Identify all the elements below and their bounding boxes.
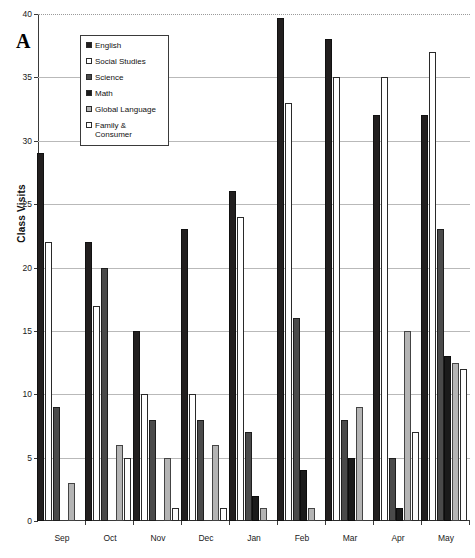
y-axis-tick-mark	[34, 521, 38, 522]
bar	[373, 115, 380, 521]
legend-item: Family & Consumer	[86, 121, 164, 139]
bar	[124, 458, 131, 521]
bar	[412, 432, 419, 521]
legend-swatch-icon	[86, 90, 92, 96]
x-axis-tick-mark	[325, 521, 326, 525]
bar	[197, 420, 204, 521]
x-axis-tick-mark	[373, 521, 374, 525]
bar	[212, 445, 219, 521]
y-axis-tick-label: 0	[8, 516, 32, 526]
y-axis-label: Class Visits	[16, 169, 27, 259]
x-axis-tick-label: Nov	[134, 533, 182, 543]
y-axis-tick-label: 25	[8, 199, 32, 209]
bar	[229, 191, 236, 521]
y-axis-tick-label: 10	[8, 389, 32, 399]
bar	[245, 432, 252, 521]
bar	[141, 394, 148, 521]
legend-swatch-icon	[86, 74, 92, 80]
bar	[133, 331, 140, 521]
x-axis-tick-mark	[181, 521, 182, 525]
bar	[181, 229, 188, 521]
bar-group: Dec	[182, 14, 230, 521]
bar	[293, 318, 300, 521]
bar	[37, 153, 44, 521]
legend-swatch-icon	[86, 122, 92, 128]
bar-group: Mar	[326, 14, 374, 521]
bar	[68, 483, 75, 521]
bar	[149, 420, 156, 521]
bar	[285, 103, 292, 521]
bar	[277, 18, 284, 521]
legend-item: English	[86, 41, 164, 50]
y-axis-tick-label: 40	[8, 9, 32, 19]
bar	[341, 420, 348, 521]
bar	[444, 356, 451, 521]
legend: EnglishSocial StudiesScienceMathGlobal L…	[80, 35, 169, 146]
bar	[404, 331, 411, 521]
bar	[460, 369, 467, 521]
bar	[389, 458, 396, 521]
bar	[437, 229, 444, 521]
x-axis-tick-label: Mar	[326, 533, 374, 543]
bar-group: Jan	[230, 14, 278, 521]
bar-group: May	[422, 14, 470, 521]
x-axis-tick-label: Feb	[278, 533, 326, 543]
bar	[45, 242, 52, 521]
legend-item-label: Science	[95, 73, 123, 82]
bar	[381, 77, 388, 521]
bar	[396, 508, 403, 521]
x-axis-tick-label: Apr	[374, 533, 422, 543]
bar	[325, 39, 332, 521]
bar-chart: A Class Visits 0510152025303540SepOctNov…	[0, 0, 475, 558]
bar	[300, 470, 307, 521]
legend-item: Global Language	[86, 105, 164, 114]
y-axis-tick-label: 15	[8, 326, 32, 336]
bar	[85, 242, 92, 521]
y-axis-tick-label: 5	[8, 453, 32, 463]
bar	[308, 508, 315, 521]
bar	[452, 363, 459, 521]
bar-group: Apr	[374, 14, 422, 521]
bar	[116, 445, 123, 521]
x-axis-tick-mark	[133, 521, 134, 525]
legend-item: Social Studies	[86, 57, 164, 66]
bar	[252, 496, 259, 521]
legend-item-label: Global Language	[95, 105, 156, 114]
x-axis-tick-label: Oct	[86, 533, 134, 543]
legend-item-label: Family & Consumer	[95, 121, 132, 139]
bar	[429, 52, 436, 521]
legend-swatch-icon	[86, 42, 92, 48]
x-axis-tick-label: May	[422, 533, 470, 543]
legend-item-label: English	[95, 41, 121, 50]
bar	[421, 115, 428, 521]
bar	[93, 306, 100, 521]
bar	[220, 508, 227, 521]
bar	[53, 407, 60, 521]
x-axis-tick-mark	[421, 521, 422, 525]
x-axis-tick-label: Jan	[230, 533, 278, 543]
y-axis-tick-label: 30	[8, 136, 32, 146]
legend-item: Science	[86, 73, 164, 82]
bar	[333, 77, 340, 521]
legend-item-label: Social Studies	[95, 57, 146, 66]
bar	[164, 458, 171, 521]
x-axis-tick-mark	[469, 521, 470, 525]
y-axis-tick-label: 20	[8, 263, 32, 273]
y-axis-tick-label: 35	[8, 72, 32, 82]
x-axis-tick-label: Sep	[38, 533, 86, 543]
bar	[101, 268, 108, 522]
legend-item-label: Math	[95, 89, 113, 98]
x-axis-tick-label: Dec	[182, 533, 230, 543]
legend-swatch-icon	[86, 58, 92, 64]
bar-group: Sep	[38, 14, 86, 521]
x-axis-tick-mark	[277, 521, 278, 525]
legend-swatch-icon	[86, 106, 92, 112]
bar-group: Feb	[278, 14, 326, 521]
x-axis-tick-mark	[85, 521, 86, 525]
bar	[237, 217, 244, 521]
bar	[348, 458, 355, 521]
bar	[356, 407, 363, 521]
bar	[189, 394, 196, 521]
x-axis-tick-mark	[229, 521, 230, 525]
bar	[260, 508, 267, 521]
